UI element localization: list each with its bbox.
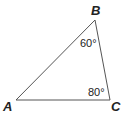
triangle-diagram: B A C 60° 80° <box>0 0 125 117</box>
angle-label-c: 80° <box>88 86 105 98</box>
vertex-label-b: B <box>91 3 100 18</box>
vertex-label-a: A <box>2 99 12 114</box>
vertex-label-c: C <box>111 99 121 114</box>
angle-label-b: 60° <box>80 37 97 49</box>
